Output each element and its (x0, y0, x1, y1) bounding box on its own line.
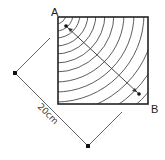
diagram-canvas: A B 20cm (0, 0, 165, 160)
dimension-lines (15, 38, 122, 146)
label-b: B (151, 103, 158, 115)
point-a-dot (64, 24, 68, 28)
point-b-dot (137, 92, 141, 96)
diagonal-measure (64, 24, 141, 96)
dimension-end-right (86, 144, 90, 148)
label-a: A (51, 6, 59, 18)
wood-grain-arcs (0, 0, 165, 135)
dimension-label: 20cm (36, 101, 61, 126)
dimension-end-left (13, 71, 17, 75)
